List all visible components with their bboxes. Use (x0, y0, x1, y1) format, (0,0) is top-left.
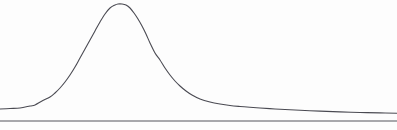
plot-canvas (0, 0, 397, 130)
distribution-curve-figure (0, 0, 397, 130)
plot-background (0, 0, 397, 130)
